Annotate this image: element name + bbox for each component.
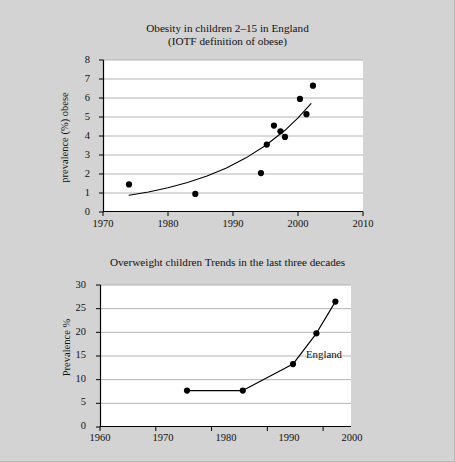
data-point-1 xyxy=(192,191,198,197)
chart1-ytick-2: 2 xyxy=(62,168,90,179)
series-marker-0-4 xyxy=(332,298,338,304)
chart1-ytick-5: 5 xyxy=(62,111,90,122)
chart-obesity-children-england: Obesity in children 2–15 in England (IOT… xyxy=(0,0,455,240)
chart2-xtick-1990: 1990 xyxy=(265,432,313,443)
data-point-8 xyxy=(303,111,309,117)
chart2-ytick-5: 5 xyxy=(56,396,86,407)
data-point-5 xyxy=(277,128,283,134)
chart1-ytick-4: 4 xyxy=(62,130,90,141)
chart2-xtick-2000: 2000 xyxy=(328,432,376,443)
chart1-xtick-2010: 2010 xyxy=(339,218,387,229)
chart2-ytick-20: 20 xyxy=(56,326,86,337)
data-point-0 xyxy=(126,181,132,187)
series-line-england xyxy=(187,302,335,391)
chart1-ytick-3: 3 xyxy=(62,149,90,160)
chart2-ytick-10: 10 xyxy=(56,373,86,384)
chart1-ytick-1: 1 xyxy=(62,187,90,198)
chart-overweight-children-trends: Overweight children Trends in the last t… xyxy=(0,248,455,462)
chart2-title: Overweight children Trends in the last t… xyxy=(0,256,455,269)
data-point-6 xyxy=(282,134,288,140)
data-point-4 xyxy=(271,122,277,128)
chart1-subtitle: (IOTF definition of obese) xyxy=(0,35,455,48)
series-marker-0-0 xyxy=(184,387,190,393)
series-marker-0-3 xyxy=(313,330,319,336)
chart1-ytick-8: 8 xyxy=(62,54,90,65)
chart2-ytick-30: 30 xyxy=(56,279,86,290)
chart2-ytick-0: 0 xyxy=(56,420,86,431)
chart1-xtick-2000: 2000 xyxy=(274,218,322,229)
data-point-9 xyxy=(310,83,316,89)
chart1-ytick-0: 0 xyxy=(62,206,90,217)
chart2-xtick-1980: 1980 xyxy=(202,432,250,443)
chart1-ytick-6: 6 xyxy=(62,92,90,103)
chart1-plot-area xyxy=(103,60,363,212)
chart2-ytick-25: 25 xyxy=(56,302,86,313)
chart2-xtick-1960: 1960 xyxy=(76,432,124,443)
data-point-7 xyxy=(297,96,303,102)
series-marker-0-2 xyxy=(290,361,296,367)
chart1-xtick-1990: 1990 xyxy=(209,218,257,229)
chart1-title: Obesity in children 2–15 in England xyxy=(0,22,455,35)
chart2-ytick-15: 15 xyxy=(56,349,86,360)
chart1-ytick-7: 7 xyxy=(62,73,90,84)
chart1-xtick-1980: 1980 xyxy=(144,218,192,229)
chart2-series-annotation-england: England xyxy=(306,348,342,360)
chart1-canvas xyxy=(103,60,363,212)
chart2-xtick-1970: 1970 xyxy=(139,432,187,443)
data-point-2 xyxy=(258,170,264,176)
chart1-xtick-1970: 1970 xyxy=(79,218,127,229)
figure-page: Obesity in children 2–15 in England (IOT… xyxy=(0,0,455,462)
data-point-3 xyxy=(264,141,270,147)
series-marker-0-1 xyxy=(240,387,246,393)
